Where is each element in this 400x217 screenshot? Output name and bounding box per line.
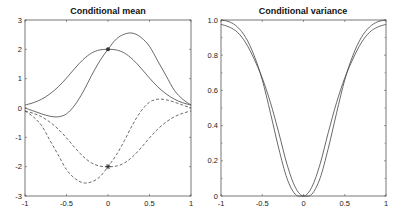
variance-2-line	[221, 24, 386, 196]
y-tick-label: 2	[18, 45, 22, 54]
y-tick-label: 0	[18, 104, 22, 113]
y-tick-label: 0	[214, 192, 218, 201]
y-tick-label: 1.0	[208, 16, 218, 25]
x-tick-label: -0.5	[60, 199, 73, 208]
conditional-variance-panel: Conditional variance -1-0.500.511.00.80.…	[208, 6, 389, 208]
mean-dashed-1-line	[25, 111, 191, 167]
y-tick-label: -1	[15, 133, 22, 142]
conditional-variance-plot-area: -1-0.500.511.00.80.60.40.20	[208, 16, 389, 209]
y-tick-label: 0.6	[208, 86, 218, 95]
mean-solid-2-line	[25, 33, 191, 117]
y-tick-label: -2	[15, 162, 22, 171]
x-tick-label: -1	[218, 199, 225, 208]
figure: Conditional mean -1-0.500.513210-1-2-3 C…	[0, 0, 400, 217]
y-tick-label: 0.4	[208, 121, 218, 130]
data-point-marker	[106, 47, 110, 51]
x-tick-label: 1	[384, 199, 388, 208]
data-point-star-marker	[106, 164, 111, 169]
axes-frame	[221, 20, 386, 196]
y-tick-label: 3	[18, 16, 22, 25]
x-tick-label: 0.5	[340, 199, 350, 208]
x-tick-label: 0	[301, 199, 305, 208]
y-tick-label: 1	[18, 74, 22, 83]
x-tick-label: 0.5	[144, 199, 154, 208]
x-tick-label: -1	[22, 199, 29, 208]
y-tick-label: -3	[15, 192, 22, 201]
variance-1-line	[221, 20, 386, 196]
mean-dashed-2-line	[25, 99, 191, 183]
mean-solid-1-line	[25, 49, 191, 105]
y-tick-label: 0.8	[208, 51, 218, 60]
conditional-mean-panel: Conditional mean -1-0.500.513210-1-2-3	[15, 6, 193, 208]
axes-frame	[25, 20, 191, 196]
x-tick-label: 0	[106, 199, 110, 208]
conditional-mean-title: Conditional mean	[70, 6, 146, 16]
conditional-variance-title: Conditional variance	[259, 6, 348, 16]
y-tick-label: 0.2	[208, 156, 218, 165]
x-tick-label: 1	[189, 199, 193, 208]
conditional-mean-plot-area: -1-0.500.513210-1-2-3	[15, 16, 193, 209]
x-tick-label: -0.5	[256, 199, 269, 208]
